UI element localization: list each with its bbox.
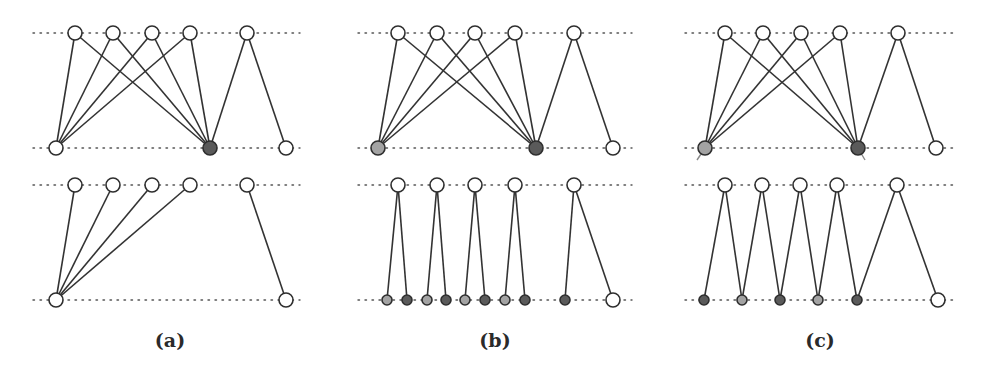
vertex-white bbox=[240, 26, 254, 40]
vertex-white bbox=[794, 26, 808, 40]
graph-edge bbox=[427, 185, 437, 300]
vertex-white bbox=[718, 26, 732, 40]
vertex-white bbox=[468, 178, 482, 192]
vertex-white bbox=[468, 26, 482, 40]
graph-edge bbox=[565, 185, 574, 300]
vertex-dark bbox=[699, 295, 709, 305]
graph-edge bbox=[705, 33, 725, 148]
vertex-dark bbox=[529, 141, 543, 155]
graph-edge bbox=[75, 33, 210, 148]
vertex-white bbox=[145, 178, 159, 192]
vertex-dark bbox=[441, 295, 451, 305]
graph-edge bbox=[437, 185, 446, 300]
graph-edge bbox=[780, 185, 800, 300]
vertex-light bbox=[460, 295, 470, 305]
panel-a bbox=[33, 26, 300, 307]
graph-edge bbox=[378, 33, 437, 148]
vertex-white bbox=[755, 178, 769, 192]
graph-edge bbox=[857, 185, 897, 300]
graph-edge bbox=[465, 185, 475, 300]
graph-edge bbox=[818, 185, 837, 300]
bipartite-graph-figure bbox=[0, 0, 987, 376]
vertex-white bbox=[240, 178, 254, 192]
graph-edge bbox=[387, 185, 398, 300]
vertex-dark bbox=[402, 295, 412, 305]
vertex-white bbox=[567, 26, 581, 40]
vertex-white bbox=[279, 293, 293, 307]
vertex-white bbox=[49, 141, 63, 155]
graph-edge bbox=[704, 185, 725, 300]
panel-b-graph-1 bbox=[358, 26, 632, 155]
graph-edge bbox=[763, 33, 858, 148]
graph-edge bbox=[398, 185, 407, 300]
vertex-white bbox=[833, 26, 847, 40]
graph-edge bbox=[247, 33, 286, 148]
graph-edge bbox=[515, 33, 536, 148]
graph-edge bbox=[210, 33, 247, 148]
vertex-white bbox=[756, 26, 770, 40]
vertex-dark bbox=[775, 295, 785, 305]
vertex-white bbox=[279, 141, 293, 155]
graph-edge bbox=[705, 33, 763, 148]
graph-edge bbox=[705, 33, 840, 148]
vertex-white bbox=[430, 26, 444, 40]
vertex-white bbox=[106, 26, 120, 40]
graph-edge bbox=[725, 33, 858, 148]
vertex-white bbox=[391, 26, 405, 40]
vertex-dark bbox=[520, 295, 530, 305]
graph-edge bbox=[897, 185, 938, 300]
graph-edge bbox=[56, 33, 75, 148]
vertex-white bbox=[718, 178, 732, 192]
vertex-white bbox=[430, 178, 444, 192]
graph-edge bbox=[800, 185, 818, 300]
vertex-light bbox=[737, 295, 747, 305]
panel-c-graph-1 bbox=[685, 26, 953, 160]
vertex-dark bbox=[203, 141, 217, 155]
vertex-white bbox=[929, 141, 943, 155]
graph-edge bbox=[705, 33, 801, 148]
graph-edge bbox=[725, 185, 742, 300]
graph-edge bbox=[898, 33, 936, 148]
graph-edge bbox=[762, 185, 780, 300]
graph-edge bbox=[858, 33, 898, 148]
vertex-white bbox=[606, 293, 620, 307]
vertex-light bbox=[371, 141, 385, 155]
panel-b bbox=[358, 26, 632, 307]
vertex-light bbox=[382, 295, 392, 305]
graph-edge bbox=[398, 33, 536, 148]
vertex-white bbox=[106, 178, 120, 192]
vertex-white bbox=[508, 178, 522, 192]
vertex-dark bbox=[851, 141, 865, 155]
vertex-white bbox=[391, 178, 405, 192]
panel-b-graph-2 bbox=[358, 178, 632, 307]
graph-edge bbox=[378, 33, 398, 148]
graph-edge bbox=[505, 185, 515, 300]
graph-edge bbox=[190, 33, 210, 148]
graph-edge bbox=[56, 185, 190, 300]
panel-label-c: (c) bbox=[805, 329, 835, 351]
vertex-light bbox=[698, 141, 712, 155]
vertex-white bbox=[793, 178, 807, 192]
graph-edge bbox=[378, 33, 475, 148]
vertex-white bbox=[890, 178, 904, 192]
graph-edge bbox=[247, 185, 286, 300]
vertex-dark bbox=[560, 295, 570, 305]
graph-edge bbox=[378, 33, 515, 148]
panel-a-graph-1 bbox=[33, 26, 300, 155]
vertex-light bbox=[500, 295, 510, 305]
vertex-white bbox=[49, 293, 63, 307]
graph-edge bbox=[475, 185, 485, 300]
panel-c bbox=[685, 26, 953, 307]
panel-a-graph-2 bbox=[33, 178, 300, 307]
graph-edge bbox=[837, 185, 857, 300]
graph-edge bbox=[515, 185, 525, 300]
vertex-dark bbox=[480, 295, 490, 305]
graph-edge bbox=[536, 33, 574, 148]
vertex-white bbox=[508, 26, 522, 40]
graph-edge bbox=[475, 33, 536, 148]
panel-c-graph-2 bbox=[685, 178, 953, 307]
vertex-light bbox=[813, 295, 823, 305]
vertex-white bbox=[931, 293, 945, 307]
vertex-white bbox=[567, 178, 581, 192]
graph-edge bbox=[742, 185, 762, 300]
